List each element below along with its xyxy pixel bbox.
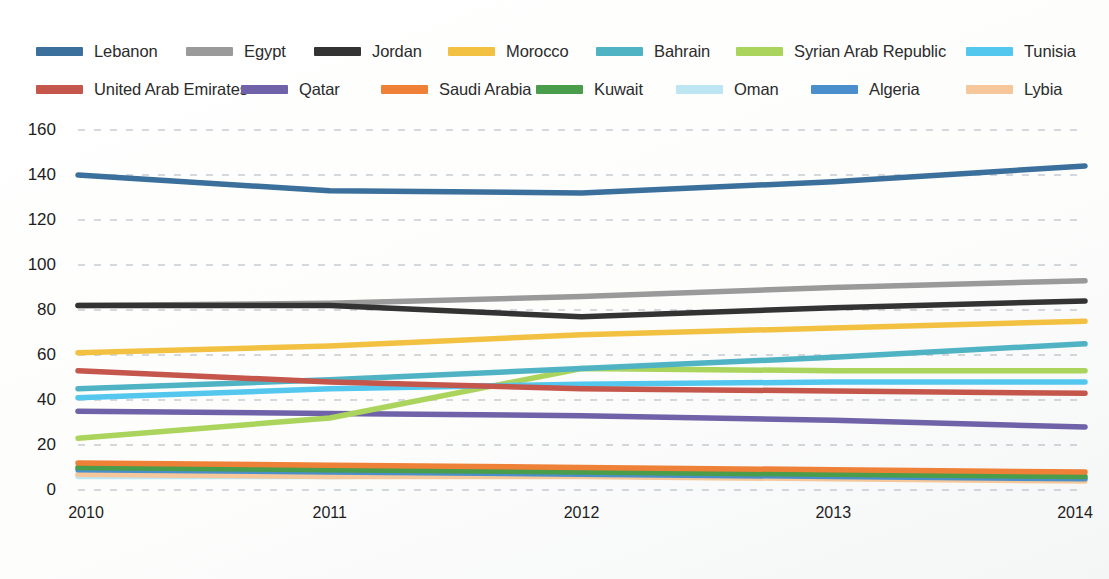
legend-item-oman[interactable]: Oman [676, 72, 779, 106]
y-axis-tick-label: 120 [8, 210, 56, 230]
y-axis-tick-label: 140 [8, 165, 56, 185]
legend-item-label: Bahrain [654, 42, 710, 61]
legend-item-jordan[interactable]: Jordan [314, 34, 422, 68]
legend-item-label: United Arab Emirates [94, 80, 248, 99]
legend-item-saudi-arabia[interactable]: Saudi Arabia [381, 72, 531, 106]
x-axis-tick-label: 2011 [313, 504, 347, 522]
y-axis-tick-label: 20 [8, 435, 56, 455]
legend-item-kuwait[interactable]: Kuwait [536, 72, 643, 106]
legend-item-bahrain[interactable]: Bahrain [596, 34, 710, 68]
legend-item-label: Morocco [506, 42, 569, 61]
legend-color-swatch [186, 47, 233, 56]
plot-area: 020406080100120140160 201020112012201320… [0, 110, 1109, 530]
legend-item-morocco[interactable]: Morocco [448, 34, 569, 68]
legend-item-algeria[interactable]: Algeria [811, 72, 920, 106]
y-axis-tick-label: 40 [8, 390, 56, 410]
legend-color-swatch [966, 85, 1013, 94]
legend-item-label: Qatar [299, 80, 340, 99]
legend-color-swatch [736, 47, 783, 56]
y-axis-tick-label: 160 [8, 120, 56, 140]
series-line-morocco[interactable] [78, 321, 1085, 353]
legend-item-united-arab-emirates[interactable]: United Arab Emirates [36, 72, 248, 106]
legend-color-swatch [448, 47, 495, 56]
series-line-egypt[interactable] [78, 281, 1085, 306]
x-axis-tick-label: 2013 [815, 504, 851, 522]
legend-item-label: Syrian Arab Republic [794, 42, 946, 61]
legend-item-egypt[interactable]: Egypt [186, 34, 286, 68]
legend-color-swatch [36, 47, 83, 56]
legend-color-swatch [596, 47, 643, 56]
legend-color-swatch [36, 85, 83, 94]
legend-color-swatch [314, 47, 361, 56]
y-axis-tick-label: 0 [8, 480, 56, 500]
plot-canvas [0, 110, 1109, 530]
legend-color-swatch [966, 47, 1013, 56]
legend-color-swatch [241, 85, 288, 94]
legend-row-top: LebanonEgyptJordanMoroccoBahrainSyrian A… [0, 34, 1109, 68]
x-axis-tick-label: 2010 [68, 504, 104, 522]
legend-item-label: Algeria [869, 80, 920, 99]
legend-item-syrian-arab-republic[interactable]: Syrian Arab Republic [736, 34, 946, 68]
y-axis-tick-label: 60 [8, 345, 56, 365]
x-axis-tick-label: 2014 [1057, 504, 1093, 522]
y-axis-tick-label: 80 [8, 300, 56, 320]
legend-item-label: Tunisia [1024, 42, 1076, 61]
legend-item-label: Jordan [372, 42, 422, 61]
line-chart: LebanonEgyptJordanMoroccoBahrainSyrian A… [0, 0, 1109, 579]
legend-item-label: Lybia [1024, 80, 1062, 99]
legend-item-label: Lebanon [94, 42, 158, 61]
legend-item-tunisia[interactable]: Tunisia [966, 34, 1076, 68]
legend-row-bottom: United Arab EmiratesQatarSaudi ArabiaKuw… [0, 72, 1109, 106]
legend-item-label: Egypt [244, 42, 286, 61]
series-line-lebanon[interactable] [78, 166, 1085, 193]
legend-item-label: Kuwait [594, 80, 643, 99]
chart-legend: LebanonEgyptJordanMoroccoBahrainSyrian A… [0, 30, 1109, 110]
legend-color-swatch [381, 85, 428, 94]
legend-item-label: Oman [734, 80, 779, 99]
legend-item-qatar[interactable]: Qatar [241, 72, 340, 106]
legend-item-lebanon[interactable]: Lebanon [36, 34, 158, 68]
legend-item-lybia[interactable]: Lybia [966, 72, 1062, 106]
legend-color-swatch [536, 85, 583, 94]
legend-color-swatch [676, 85, 723, 94]
legend-color-swatch [811, 85, 858, 94]
y-axis-tick-label: 100 [8, 255, 56, 275]
x-axis-tick-label: 2012 [564, 504, 600, 522]
legend-item-label: Saudi Arabia [439, 80, 531, 99]
series-line-jordan[interactable] [78, 301, 1085, 317]
